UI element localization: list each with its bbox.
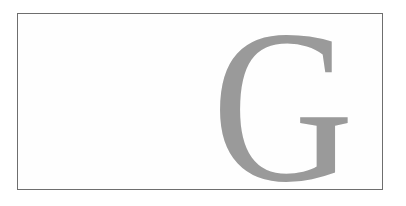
drop-cap-letter: G	[212, 13, 354, 190]
drop-cap-frame: G	[17, 13, 383, 190]
